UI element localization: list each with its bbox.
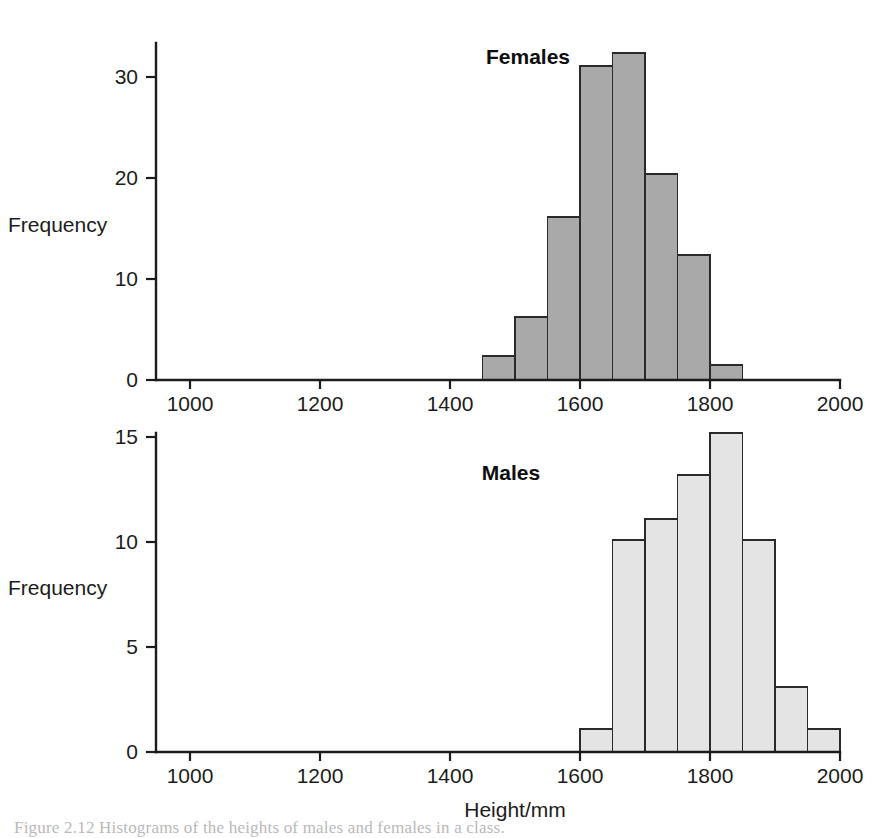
males-histogram-plot: 100012001400160018002000051015FrequencyM… xyxy=(0,415,883,838)
histogram-bar xyxy=(515,317,548,380)
histogram-bar xyxy=(678,475,711,752)
histogram-bar xyxy=(483,356,516,380)
figure-caption: Figure 2.12 Histograms of the heights of… xyxy=(0,818,883,838)
histogram-bar xyxy=(775,687,808,752)
x-tick-label: 1200 xyxy=(297,764,344,787)
y-tick-label: 10 xyxy=(115,267,138,290)
figure-histograms-of-heights: 1000120014001600180020000102030Frequency… xyxy=(0,0,883,838)
histogram-bar xyxy=(710,433,743,752)
x-tick-label: 2000 xyxy=(817,764,864,787)
x-tick-label: 1600 xyxy=(557,392,604,415)
histogram-bar xyxy=(580,729,613,752)
x-tick-label: 1600 xyxy=(557,764,604,787)
x-tick-label: 1800 xyxy=(687,764,734,787)
x-tick-label: 1400 xyxy=(427,392,474,415)
panel-title: Males xyxy=(482,461,540,484)
y-axis-title: Frequency xyxy=(8,213,108,236)
y-tick-label: 30 xyxy=(115,65,138,88)
x-tick-label: 1400 xyxy=(427,764,474,787)
y-tick-label: 10 xyxy=(115,530,138,553)
y-tick-label: 5 xyxy=(126,635,138,658)
histogram-bar xyxy=(710,365,743,380)
x-tick-label: 1000 xyxy=(167,764,214,787)
y-tick-label: 20 xyxy=(115,166,138,189)
histogram-bar xyxy=(613,53,646,380)
histogram-bar xyxy=(678,255,711,380)
chart-panel-females: 1000120014001600180020000102030Frequency… xyxy=(0,0,883,415)
x-tick-label: 1200 xyxy=(297,392,344,415)
x-tick-label: 1800 xyxy=(687,392,734,415)
y-tick-label: 15 xyxy=(115,425,138,448)
y-tick-label: 0 xyxy=(126,368,138,391)
histogram-bar xyxy=(580,66,613,380)
histogram-bar xyxy=(548,217,581,380)
figure-caption-strip: Figure 2.12 Histograms of the heights of… xyxy=(0,818,883,838)
y-tick-label: 0 xyxy=(126,740,138,763)
chart-panel-males: 100012001400160018002000051015FrequencyM… xyxy=(0,415,883,838)
histogram-bar xyxy=(613,540,646,752)
histogram-bar xyxy=(645,519,678,752)
panel-title: Females xyxy=(486,45,570,68)
x-tick-label: 1000 xyxy=(167,392,214,415)
histogram-bar xyxy=(808,729,841,752)
y-axis-title: Frequency xyxy=(8,576,108,599)
x-tick-label: 2000 xyxy=(817,392,864,415)
histogram-bar xyxy=(743,540,776,752)
histogram-bar xyxy=(645,174,678,380)
females-histogram-plot: 1000120014001600180020000102030Frequency… xyxy=(0,0,883,415)
